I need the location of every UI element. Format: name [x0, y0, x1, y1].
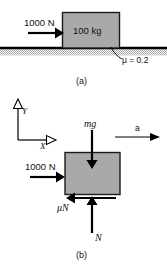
weight-force-label: mg: [84, 118, 96, 129]
axis-y-label: Y: [22, 106, 28, 116]
panel-a-group: 1000 N 100 kg μ = 0.2 (a): [0, 13, 167, 87]
applied-force-label-b: 1000 N: [25, 161, 56, 172]
block-mass-label-a: 100 kg: [73, 25, 102, 36]
normal-force-arrow: [87, 196, 98, 233]
applied-force-label-a: 1000 N: [24, 17, 55, 28]
coordinate-axes: Y X: [14, 99, 57, 151]
normal-force-label: N: [94, 232, 103, 243]
acceleration-label: a: [135, 123, 140, 133]
axis-x-label: X: [39, 141, 46, 151]
figure-canvas: 1000 N 100 kg μ = 0.2 (a) Y X: [0, 0, 167, 269]
applied-force-arrow-b: [30, 172, 65, 183]
panel-b-caption: (b): [76, 250, 87, 260]
friction-coefficient-label-a: μ = 0.2: [122, 55, 149, 65]
axis-x-arrowhead: [47, 136, 57, 145]
physics-figure: 1000 N 100 kg μ = 0.2 (a) Y X: [0, 0, 167, 269]
panel-a-caption: (a): [76, 76, 87, 86]
applied-force-arrow-a: [28, 28, 64, 39]
friction-force-label: μN: [56, 202, 70, 213]
panel-b-group: Y X: [14, 99, 161, 260]
acceleration-arrow: [115, 133, 160, 141]
